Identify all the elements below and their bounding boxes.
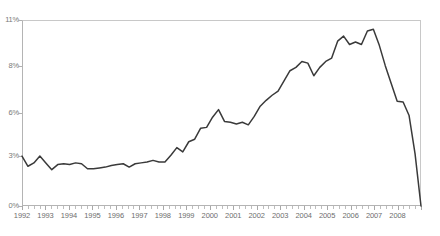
x-axis-tick-mark-major — [233, 206, 234, 210]
x-axis-tick-mark-minor — [57, 206, 58, 209]
x-axis-tick-mark-minor — [157, 206, 158, 209]
y-axis-tick-label: 11% — [0, 15, 19, 24]
x-axis-tick-mark-minor — [110, 206, 111, 209]
x-axis-tick-mark-minor — [169, 206, 170, 209]
x-axis-tick-mark-minor — [356, 206, 357, 209]
x-axis-tick-mark-minor — [321, 206, 322, 209]
x-axis-tick-mark-minor — [34, 206, 35, 209]
x-axis-tick-label: 2008 — [381, 211, 415, 220]
x-axis-tick-mark-minor — [51, 206, 52, 209]
x-axis-tick-mark-minor — [274, 206, 275, 209]
x-axis-tick-mark-minor — [122, 206, 123, 209]
x-axis-tick-mark-major — [351, 206, 352, 210]
x-axis-tick-mark-minor — [368, 206, 369, 209]
x-axis-tick-mark-major — [45, 206, 46, 210]
series-polyline — [22, 29, 421, 206]
x-axis-tick-mark-major — [139, 206, 140, 210]
x-axis-tick-mark-major — [69, 206, 70, 210]
x-axis-tick-mark-minor — [145, 206, 146, 209]
x-axis-tick-mark-minor — [239, 206, 240, 209]
x-axis-tick-mark-minor — [251, 206, 252, 209]
x-axis-tick-mark-minor — [81, 206, 82, 209]
x-axis-tick-mark-minor — [386, 206, 387, 209]
line-series — [22, 20, 421, 206]
x-axis-tick-mark-minor — [222, 206, 223, 209]
x-axis-tick-mark-minor — [310, 206, 311, 209]
x-axis-tick-mark-minor — [63, 206, 64, 209]
x-axis-tick-mark-minor — [345, 206, 346, 209]
y-axis-tick-label: 8% — [0, 61, 19, 70]
x-axis-tick-mark-minor — [403, 206, 404, 209]
x-axis-tick-mark-minor — [151, 206, 152, 209]
x-axis-tick-mark-minor — [409, 206, 410, 209]
x-axis-tick-mark-major — [374, 206, 375, 210]
x-axis-tick-mark-minor — [216, 206, 217, 209]
x-axis-tick-mark-minor — [198, 206, 199, 209]
x-axis-tick-mark-minor — [87, 206, 88, 209]
x-axis-tick-mark-minor — [315, 206, 316, 209]
x-axis-tick-mark-minor — [40, 206, 41, 209]
x-axis-tick-mark-minor — [180, 206, 181, 209]
x-axis-tick-mark-minor — [175, 206, 176, 209]
x-axis-tick-mark-major — [280, 206, 281, 210]
x-axis-tick-mark-minor — [392, 206, 393, 209]
x-axis-tick-mark-minor — [362, 206, 363, 209]
x-axis-tick-mark-major — [186, 206, 187, 210]
x-axis-tick-mark-minor — [28, 206, 29, 209]
x-axis-tick-mark-minor — [192, 206, 193, 209]
x-axis-tick-mark-major — [327, 206, 328, 210]
x-axis-tick-mark-minor — [204, 206, 205, 209]
x-axis-tick-mark-minor — [245, 206, 246, 209]
x-axis-tick-mark-minor — [128, 206, 129, 209]
x-axis-tick-mark-major — [116, 206, 117, 210]
x-axis-tick-mark-minor — [333, 206, 334, 209]
x-axis-tick-mark-major — [257, 206, 258, 210]
x-axis-tick-mark-major — [398, 206, 399, 210]
x-axis-tick-mark-minor — [268, 206, 269, 209]
x-axis-tick-mark-minor — [227, 206, 228, 209]
x-axis-tick-mark-minor — [263, 206, 264, 209]
y-axis-tick-label: 6% — [0, 108, 19, 117]
chart-container: 11%8%6%3%0% 1992199319941995199619971998… — [0, 0, 440, 236]
x-axis-tick-mark-minor — [339, 206, 340, 209]
x-axis-tick-mark-minor — [292, 206, 293, 209]
x-axis-tick-mark-minor — [380, 206, 381, 209]
x-axis-tick-mark-minor — [104, 206, 105, 209]
x-axis-tick-mark-minor — [298, 206, 299, 209]
x-axis-tick-mark-major — [163, 206, 164, 210]
y-axis-tick-label: 3% — [0, 151, 19, 160]
x-axis-tick-mark-major — [304, 206, 305, 210]
x-axis-tick-mark-minor — [75, 206, 76, 209]
y-axis-tick-label: 0% — [0, 201, 19, 210]
x-axis-tick-mark-major — [210, 206, 211, 210]
x-axis-tick-mark-minor — [286, 206, 287, 209]
x-axis-tick-mark-minor — [98, 206, 99, 209]
x-axis-tick-mark-minor — [415, 206, 416, 209]
x-axis-tick-mark-minor — [133, 206, 134, 209]
x-axis-tick-mark-major — [22, 206, 23, 210]
x-axis-tick-mark-major — [92, 206, 93, 210]
